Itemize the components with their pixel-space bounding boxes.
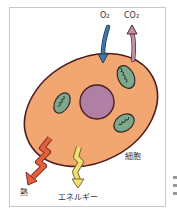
cell-label: 細胞 [125,150,141,161]
nucleus [80,85,114,119]
o2-label: O₂ [100,11,110,20]
margin-mark [173,184,177,187]
energy-label: エネルギー [58,191,98,202]
co2-outflow-arrow-icon [127,25,137,60]
o2-inflow-arrow-icon [98,27,108,63]
co2-label: CO₂ [124,11,139,20]
margin-mark [173,176,177,179]
heat-label: 熱 [20,186,28,197]
margin-mark [173,192,177,195]
